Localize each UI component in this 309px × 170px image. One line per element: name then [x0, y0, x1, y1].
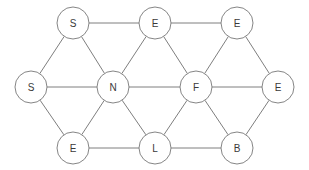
graph-edge — [122, 100, 146, 135]
graph-node[interactable]: S — [57, 7, 89, 39]
graph-node[interactable]: S — [15, 71, 47, 103]
graph-edge — [205, 36, 229, 73]
node-layer: SEESNFEELB — [15, 7, 294, 164]
graph-edge — [81, 37, 104, 74]
graph-node[interactable]: L — [139, 132, 171, 164]
node-label: N — [109, 82, 116, 93]
graph-edge — [82, 100, 104, 134]
graph-edge — [40, 100, 64, 135]
graph-node[interactable]: E — [139, 7, 171, 39]
graph-node[interactable]: E — [262, 71, 294, 103]
graph-diagram: SEESNFEELB — [0, 0, 309, 170]
node-label: E — [275, 82, 282, 93]
node-label: E — [70, 143, 77, 154]
edge-layer — [40, 23, 270, 148]
graph-edge — [246, 100, 269, 134]
graph-edge — [40, 36, 64, 73]
graph-node[interactable]: B — [221, 132, 253, 164]
graph-edge — [246, 36, 270, 73]
node-label: S — [28, 82, 35, 93]
node-label: E — [152, 18, 159, 29]
graph-edge — [122, 36, 146, 73]
graph-edge — [164, 100, 187, 134]
node-label: L — [152, 143, 158, 154]
graph-node[interactable]: E — [221, 7, 253, 39]
graph-node[interactable]: E — [57, 132, 89, 164]
node-label: S — [70, 18, 77, 29]
graph-node[interactable]: N — [97, 71, 129, 103]
node-label: F — [193, 82, 199, 93]
graph-edge — [205, 100, 228, 134]
node-label: B — [234, 143, 241, 154]
graph-node[interactable]: F — [180, 71, 212, 103]
node-label: E — [234, 18, 241, 29]
graph-edge — [164, 36, 188, 73]
